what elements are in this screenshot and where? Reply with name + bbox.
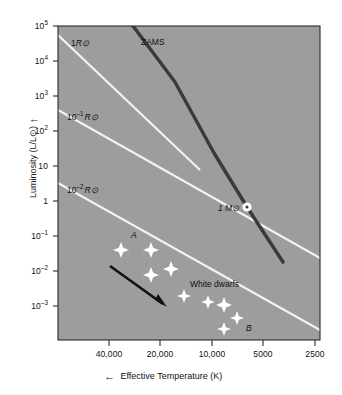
x-axis-title: ← Effective Temperature (K) — [104, 371, 222, 382]
x-tick-label: 2500 — [291, 350, 339, 359]
sun-mass-label: 1 M⊙ — [218, 203, 239, 213]
radius-label-0.01Rsun: 10–2R⊙ — [67, 185, 98, 195]
x-tick-label: 10,000 — [188, 350, 236, 359]
y-tick-label: 10–3 — [14, 302, 48, 311]
radius-label-0.1Rsun: 10–1R⊙ — [67, 112, 98, 122]
up-arrow-icon: ↑ — [28, 118, 39, 124]
y-tick-label: 105 — [14, 22, 48, 31]
y-axis-ticks — [53, 26, 58, 306]
y-axis-title: Luminosity (L/L⊙) ↑ — [22, 73, 38, 243]
sun-marker — [242, 202, 251, 211]
y-tick-label: 10–2 — [14, 267, 48, 276]
x-tick-label: 40,000 — [85, 350, 133, 359]
x-tick-label: 20,000 — [136, 350, 184, 359]
y-axis-title-text: Luminosity (L/L⊙) — [28, 126, 38, 198]
x-axis-title-text: Effective Temperature (K) — [121, 371, 223, 381]
x-tick-label: 5000 — [239, 350, 287, 359]
plot-canvas — [0, 0, 342, 395]
left-arrow-icon: ← — [104, 371, 115, 382]
radius-label-1Rsun: 1R⊙ — [71, 38, 89, 48]
y-tick-label: 104 — [14, 57, 48, 66]
hr-diagram-figure: 105 104 103 102 10 1 10–1 10–2 10–3 40,0… — [0, 0, 342, 395]
star-label-A: A — [131, 230, 137, 240]
star-label-B: B — [246, 323, 252, 333]
zams-label: ZAMS — [141, 37, 165, 47]
white-dwarfs-label: White dwarfs — [190, 279, 239, 289]
x-axis-ticks — [109, 340, 315, 346]
